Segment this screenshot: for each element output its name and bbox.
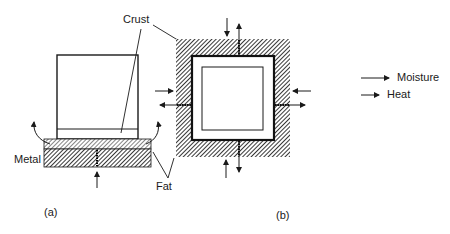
crust-label: Crust [123,14,149,25]
panel-a [34,29,159,188]
legend [361,78,389,95]
fat-leader-1 [153,152,168,178]
fat-leader-2 [168,158,174,178]
legend-heat-label: Heat [387,89,410,100]
metal-label: Metal [14,154,41,165]
diagram-graphics [0,0,450,234]
diagram-canvas: Crust Metal Fat (a) (b) Moisture Heat [0,0,450,234]
panel-b-label: (b) [276,210,289,221]
panel-a-label: (a) [44,207,57,218]
core-b [202,67,263,130]
food-block-a [57,55,138,139]
legend-moisture-label: Moisture [397,72,439,83]
fat-layer-a [44,139,151,149]
panel-b [155,18,311,178]
fat-label: Fat [156,181,172,192]
